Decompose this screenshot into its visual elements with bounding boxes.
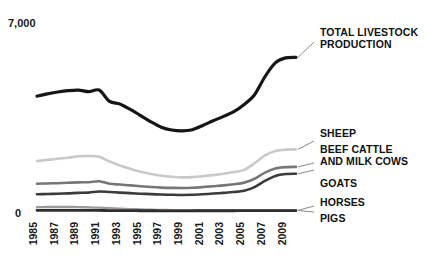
- x-tick-label-1991: 1991: [89, 222, 101, 246]
- x-tick-label-2005: 2005: [234, 222, 246, 246]
- series-labels: TOTAL LIVESTOCKPRODUCTIONSHEEPBEEF CATTL…: [320, 26, 418, 224]
- series-label-total-livestock-production: TOTAL LIVESTOCKPRODUCTION: [320, 26, 418, 50]
- series-label-sheep: SHEEP: [320, 127, 356, 139]
- x-tick-label-2001: 2001: [193, 222, 205, 246]
- x-tick-label-1999: 1999: [172, 222, 184, 246]
- series-label-horses: HORSES: [320, 196, 365, 208]
- leader-line-pigs: [298, 211, 314, 212]
- series-label-beef-cattle-and-milk-cows: BEEF CATTLEAND MILK COWS: [320, 143, 408, 167]
- series-lines: [37, 57, 296, 210]
- chart-canvas: 7,000 0 TOTAL LIVESTOCKPRODUCTIONSHEEPBE…: [0, 0, 428, 274]
- x-tick-label-2009: 2009: [276, 222, 288, 246]
- x-tick-label-1987: 1987: [48, 222, 60, 246]
- livestock-production-line-chart: 7,000 0 TOTAL LIVESTOCKPRODUCTIONSHEEPBE…: [0, 0, 428, 274]
- x-tick-label-1997: 1997: [151, 222, 163, 246]
- x-tick-label-1989: 1989: [68, 222, 80, 246]
- x-tick-label-1993: 1993: [110, 222, 122, 246]
- series-label-pigs: PIGS: [320, 212, 346, 224]
- y-tick-label-top: 7,000: [8, 17, 36, 29]
- leader-line-beef-cattle-and-milk-cows: [298, 163, 314, 167]
- x-tick-label-2007: 2007: [255, 222, 267, 246]
- series-line-total-livestock-production: [37, 57, 296, 130]
- leader-line-total-livestock-production: [298, 42, 314, 57]
- x-tick-label-1985: 1985: [27, 222, 39, 246]
- series-line-sheep: [37, 149, 296, 177]
- x-tick-label-1995: 1995: [131, 222, 143, 246]
- x-axis-tick-labels: 1985198719891991199319951997199920012003…: [27, 222, 288, 246]
- series-leader-lines: [298, 42, 314, 212]
- y-axis-ticks: 7,000 0: [8, 17, 36, 219]
- series-label-goats: GOATS: [320, 177, 357, 189]
- y-tick-label-bottom: 0: [15, 207, 21, 219]
- leader-line-sheep: [298, 141, 314, 149]
- x-tick-label-2003: 2003: [213, 222, 225, 246]
- leader-line-horses: [298, 206, 314, 210]
- leader-line-goats: [298, 170, 314, 174]
